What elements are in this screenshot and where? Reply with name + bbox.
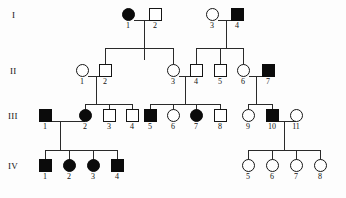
individual-I-1-circle-affected	[122, 8, 135, 21]
descent-stub-I1-I2	[144, 48, 145, 60]
id-label-IV-7: 7	[288, 172, 304, 181]
generation-label-I: I	[12, 10, 15, 20]
individual-I-4-square-affected	[231, 8, 244, 21]
descent-line-I3-I4	[226, 20, 227, 48]
individual-IV-2-circle-affected	[63, 159, 76, 172]
individual-IV-7-circle-unaffected	[290, 159, 303, 172]
descent-line-I1-I2	[144, 20, 145, 48]
individual-I-3-circle-unaffected	[206, 8, 219, 21]
individual-II-6-circle-unaffected	[237, 64, 250, 77]
individual-IV-3-circle-affected	[87, 159, 100, 172]
id-label-II-4: 4	[188, 77, 204, 86]
individual-III-10-square-affected	[266, 109, 279, 122]
id-label-II-3: 3	[165, 77, 181, 86]
descent-line-II3-II4	[185, 76, 186, 104]
individual-III-5-square-affected	[144, 109, 157, 122]
id-label-I-4: 4	[229, 21, 245, 30]
id-label-IV-6: 6	[264, 172, 280, 181]
individual-IV-5-circle-unaffected	[242, 159, 255, 172]
id-label-III-8: 8	[212, 122, 228, 131]
individual-III-11-circle-unaffected	[290, 109, 303, 122]
pedigree-chart: I II III IV 1234123456	[0, 0, 346, 198]
generation-label-III: III	[8, 111, 18, 121]
sibship-bar-gen3-b	[150, 104, 220, 105]
generation-label-II: II	[10, 66, 17, 76]
id-label-III-3: 3	[101, 122, 117, 131]
individual-II-5-square-unaffected	[214, 64, 227, 77]
individual-II-3-circle-unaffected	[167, 64, 180, 77]
id-label-I-1: 1	[120, 21, 136, 30]
id-label-II-6: 6	[235, 77, 251, 86]
individual-IV-1-square-affected	[39, 159, 52, 172]
id-label-III-11: 11	[288, 122, 304, 131]
individual-III-7-circle-affected	[190, 109, 203, 122]
individual-I-2-square-unaffected	[149, 8, 162, 21]
individual-II-1-circle-unaffected	[76, 64, 89, 77]
sibship-bar-gen4-left	[45, 150, 117, 151]
descent-line-II6-II7	[256, 76, 257, 104]
individual-IV-8-circle-unaffected	[314, 159, 327, 172]
individual-III-6-circle-unaffected	[167, 109, 180, 122]
id-label-III-2: 2	[77, 122, 93, 131]
sibship-bar-gen3-c	[248, 104, 272, 105]
id-label-IV-4: 4	[109, 172, 125, 181]
id-label-III-7: 7	[188, 122, 204, 131]
id-label-II-2: 2	[97, 77, 113, 86]
id-label-II-7: 7	[260, 77, 276, 86]
id-label-II-1: 1	[74, 77, 90, 86]
individual-III-2-circle-affected	[79, 109, 92, 122]
individual-III-8-square-unaffected	[214, 109, 227, 122]
id-label-III-9: 9	[240, 122, 256, 131]
id-label-II-5: 5	[212, 77, 228, 86]
individual-II-4-square-unaffected	[190, 64, 203, 77]
id-label-III-4: 4	[124, 122, 140, 131]
individual-II-2-square-unaffected	[99, 64, 112, 77]
id-label-III-10: 10	[264, 122, 280, 131]
sibship-bar-gen2-left	[105, 48, 174, 49]
individual-III-4-square-unaffected	[126, 109, 139, 122]
id-label-IV-8: 8	[312, 172, 328, 181]
individual-III-3-square-unaffected	[103, 109, 116, 122]
id-label-IV-3: 3	[85, 172, 101, 181]
descent-line-III10-III11	[284, 121, 285, 150]
sibship-bar-gen4-right	[248, 150, 320, 151]
id-label-IV-5: 5	[240, 172, 256, 181]
id-label-III-1: 1	[37, 122, 53, 131]
individual-IV-4-square-affected	[111, 159, 124, 172]
id-label-IV-2: 2	[61, 172, 77, 181]
id-label-I-3: 3	[204, 21, 220, 30]
generation-label-IV: IV	[8, 161, 18, 171]
individual-III-9-circle-unaffected	[242, 109, 255, 122]
individual-IV-6-circle-unaffected	[266, 159, 279, 172]
id-label-IV-1: 1	[37, 172, 53, 181]
id-label-I-2: 2	[147, 21, 163, 30]
individual-III-1-square-affected	[39, 109, 52, 122]
id-label-III-5: 5	[142, 122, 158, 131]
individual-II-7-square-affected	[262, 64, 275, 77]
id-label-III-6: 6	[165, 122, 181, 131]
descent-line-III1-III2	[60, 121, 61, 150]
